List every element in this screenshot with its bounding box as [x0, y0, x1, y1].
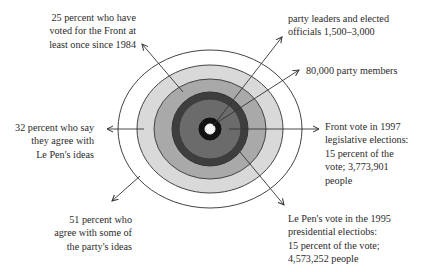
label-presidential-1995: Le Pen's vote in the 1995 presidential e… — [288, 212, 418, 266]
label-legislative-1997: Front vote in 1997 legislative elections… — [325, 120, 421, 187]
label-voted-since-1984: 25 percent who have voted for the Front … — [38, 11, 136, 51]
arrow-51pct-icon — [112, 176, 140, 201]
label-agree-some-ideas: 51 percent who agree with some of the pa… — [44, 213, 132, 253]
label-party-members: 80,000 party members — [306, 64, 421, 77]
label-party-leaders: party leaders and elected officials 1,50… — [288, 12, 421, 39]
label-agree-le-pen: 32 percent who say they agree with Le Pe… — [6, 121, 94, 161]
